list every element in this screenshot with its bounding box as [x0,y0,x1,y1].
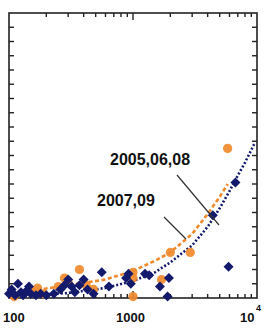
annotation-label-2007-09: 2007,09 [97,192,155,209]
data-point-2007-09 [186,248,195,257]
data-point-2007-09 [223,144,232,153]
data-point-2007-09 [166,248,175,257]
data-point-2007-09 [75,265,84,274]
data-point-2007-09 [128,292,137,301]
x-tick-label-exponent: 4 [256,303,261,313]
x-tick-labels: 100 1000 10 4 [3,303,261,325]
x-tick-label-10000: 10 [240,310,254,325]
data-point-2007-09 [157,275,166,284]
chart: 2005,06,08 2007,09 100 1000 10 4 [0,0,271,328]
x-tick-label-100: 100 [3,310,25,325]
x-tick-label-1000: 1000 [116,310,145,325]
annotation-label-2005-06-08: 2005,06,08 [110,151,190,168]
